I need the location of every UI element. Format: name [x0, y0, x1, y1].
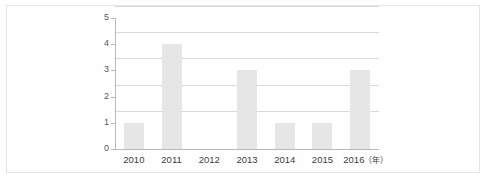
y-tick-label-0: 0: [13, 144, 109, 153]
x-axis-tick-labels: 2010201120122013201420152016（年）: [115, 153, 379, 169]
bar-2016: [350, 70, 370, 149]
bar-chart: 012345 2010201120122013201420152016（年）: [7, 6, 481, 174]
bar-2013: [237, 70, 257, 149]
x-tick-label-2013: 2013: [228, 153, 266, 167]
y-tick-label-2: 2: [13, 92, 109, 101]
bar-series: [115, 18, 379, 149]
figure-frame: 012345 2010201120122013201420152016（年）: [6, 5, 480, 173]
x-axis-line: [115, 149, 379, 150]
y-tick-label-5: 5: [13, 13, 109, 22]
gridline-5: [115, 6, 379, 7]
x-axis-unit-label: （年）: [364, 156, 388, 165]
bar-2015: [312, 123, 332, 149]
bar-2010: [124, 123, 144, 149]
x-tick-label-2012: 2012: [190, 153, 228, 167]
bar-2011: [162, 44, 182, 149]
x-tick-label-2016: 2016（年）: [343, 153, 405, 168]
y-tick-label-1: 1: [13, 118, 109, 127]
y-axis-tick-labels: 012345: [7, 6, 109, 174]
y-tick-label-4: 4: [13, 39, 109, 48]
x-tick-label-2010: 2010: [115, 153, 153, 167]
x-tick-label-2014: 2014: [266, 153, 304, 167]
y-tick-mark-0: [111, 149, 115, 150]
x-tick-label-2011: 2011: [153, 153, 191, 167]
bar-2014: [275, 123, 295, 149]
y-tick-label-3: 3: [13, 65, 109, 74]
x-tick-label-2015: 2015: [304, 153, 342, 167]
